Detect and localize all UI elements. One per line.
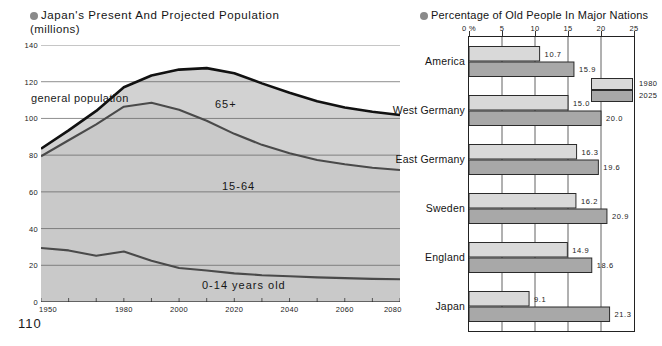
country-label-japan: Japan (435, 300, 465, 312)
legend-label-1980: 1980 (639, 79, 657, 88)
y-axis-tick-120: 120 (16, 77, 38, 86)
right-chart-legend: 1980 2025 (591, 78, 662, 108)
x-axis-tick-1950: 1950 (39, 305, 57, 314)
left-chart-title-text: Japan's Present And Projected Population (41, 9, 279, 21)
left-chart-svg (41, 45, 400, 302)
y-axis-tick-60: 60 (16, 187, 38, 196)
right-chart-x-axis: 0 %510152025 (418, 24, 642, 36)
bar-value-sweden-1980: 16.2 (581, 196, 598, 205)
right-chart-title-text: Percentage of Old People In Major Nation… (431, 9, 648, 21)
y-axis-tick-80: 80 (16, 151, 38, 160)
page-number: 110 (18, 316, 42, 331)
bar-value-america-1980: 10.7 (545, 49, 562, 58)
x-axis-tick-2000: 2000 (170, 305, 188, 314)
y-axis-tick-20: 20 (16, 261, 38, 270)
y-axis-tick-40: 40 (16, 224, 38, 233)
left-chart-y-axis: 020406080100120140 (14, 45, 38, 302)
legend-swatch-2025 (591, 90, 633, 102)
bar-value-england-1980: 14.9 (572, 245, 589, 254)
country-label-america: America (425, 55, 465, 67)
x-axis-tick-2040: 2040 (281, 305, 299, 314)
country-label-east-germany: East Germany (395, 153, 465, 165)
bullet-circle-icon (420, 12, 428, 20)
left-chart-x-axis: 1950198020002020204020602080 (41, 305, 400, 319)
x-axis-tick-1980: 1980 (115, 305, 133, 314)
x-axis-tick-2020: 2020 (225, 305, 243, 314)
band-label-0-14: 0-14 years old (202, 279, 286, 291)
right-chart-plot-area: 1980 2025 (468, 36, 635, 332)
country-label-england: England (425, 251, 465, 263)
x-axis-tick-2060: 2060 (336, 305, 354, 314)
annotation-general-population: general population (31, 92, 129, 104)
bar-value-west-germany-2025: 20.0 (606, 114, 623, 123)
legend-label-2025: 2025 (639, 91, 657, 100)
country-label-west-germany: West Germany (393, 104, 465, 116)
bar-value-east-germany-1980: 16.3 (582, 147, 599, 156)
bar-value-england-2025: 18.6 (597, 261, 614, 270)
bar-value-sweden-2025: 20.9 (612, 212, 629, 221)
x-axis-tick-2080: 2080 (384, 305, 402, 314)
bar-value-america-2025: 15.9 (579, 65, 596, 74)
y-axis-tick-140: 140 (16, 41, 38, 50)
japan-population-chart: Japan's Present And Projected Population… (0, 0, 420, 346)
bar-value-east-germany-2025: 19.6 (603, 163, 620, 172)
right-chart-title: Percentage of Old People In Major Nation… (420, 9, 648, 21)
legend-swatch-1980 (591, 78, 633, 90)
bar-value-japan-2025: 21.3 (615, 310, 632, 319)
bar-value-west-germany-1980: 15.0 (573, 98, 590, 107)
left-chart-plot-area (41, 45, 400, 302)
y-axis-tick-100: 100 (16, 114, 38, 123)
left-chart-subtitle: (millions) (30, 23, 80, 35)
y-axis-tick-0: 0 (16, 298, 38, 307)
bar-value-japan-1980: 9.1 (534, 294, 546, 303)
band-label-15-64: 15-64 (222, 180, 255, 192)
bullet-circle-icon (30, 12, 38, 20)
left-chart-title: Japan's Present And Projected Population (30, 9, 279, 21)
old-people-percentage-chart: Percentage of Old People In Major Nation… (418, 0, 642, 346)
country-label-sweden: Sweden (426, 202, 465, 214)
band-label-65plus: 65+ (215, 98, 237, 110)
